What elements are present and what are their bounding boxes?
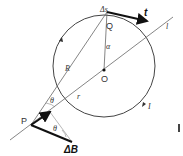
label-theta-bottom: θ [53,124,57,133]
tangent-vector-t [107,12,147,21]
label-I: I [147,102,151,111]
label-theta-top: θ [50,96,54,105]
label-t: t [144,7,148,18]
label-O: O [101,74,108,84]
label-R: R [64,64,70,73]
current-direction-arrow-icon [142,102,146,107]
label-delta-s: Δs [99,5,108,14]
label-Q: Q [106,21,113,31]
label-l: l [166,22,169,31]
center-point [102,68,105,71]
label-delta-B: ΔB [63,144,78,155]
label-r: r [77,92,81,101]
cropped-fragment [178,124,180,132]
loop-diagram: Δs t l Q α R O r θ θ P I ΔB [0,0,183,156]
axial-component-arrow [31,112,50,125]
label-P: P [21,116,27,126]
label-alpha: α [106,42,111,51]
